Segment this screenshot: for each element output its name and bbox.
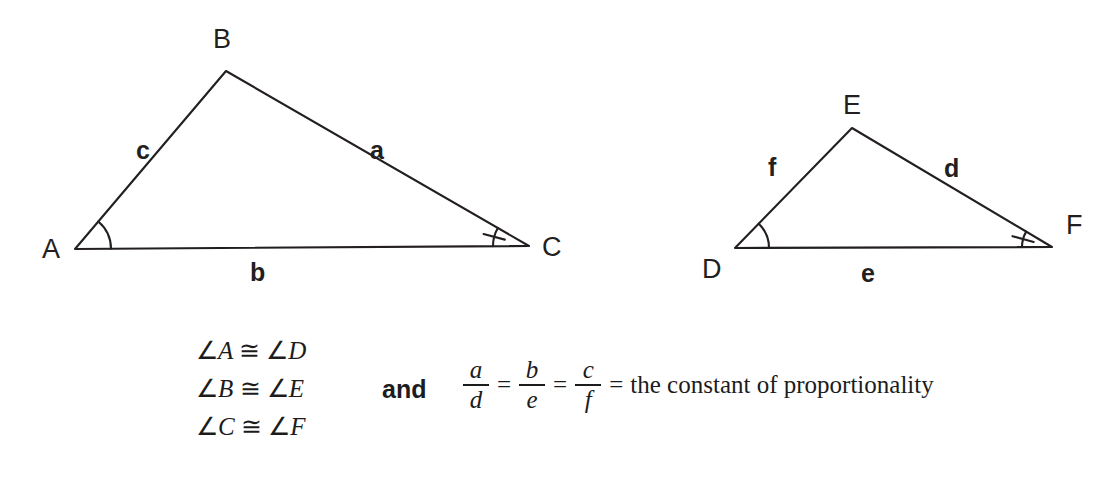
congruent-symbol-2: ≅ [240, 375, 261, 402]
angle-left-1: A [218, 337, 233, 364]
fraction-a-over-d: a d [463, 356, 489, 414]
angle-right-2: E [289, 375, 304, 402]
triangle-abc-group: A B C c a b [42, 24, 562, 286]
fraction-denominator: e [521, 386, 544, 414]
equals-sign-1: = [497, 371, 511, 399]
equals-sign-2: = [553, 371, 567, 399]
vertex-label-b: B [213, 24, 231, 54]
angle-arc-a [98, 222, 111, 249]
side-label-f: f [768, 153, 777, 181]
proportion-equation: a d = b e = c f = the constant of propor… [458, 356, 934, 414]
proportionality-text: the constant of proportionality [630, 371, 933, 399]
angle-congruence-list: ∠A ≅ ∠D ∠B ≅ ∠E ∠C ≅ ∠F [196, 332, 356, 446]
fraction-numerator: c [577, 356, 600, 384]
side-label-b: b [250, 258, 265, 286]
similarity-statements: ∠A ≅ ∠D ∠B ≅ ∠E ∠C ≅ ∠F and a d = [196, 332, 1076, 452]
conjunction-and: and [382, 370, 426, 408]
angle-symbol-3b: ∠ [268, 413, 290, 440]
angle-right-3: F [290, 413, 305, 440]
fraction-numerator: b [520, 356, 545, 384]
similar-triangles-figure: A B C c a b D E F f d e ∠A ≅ ∠D [0, 0, 1113, 483]
angle-symbol-3: ∠ [196, 413, 218, 440]
angle-congruence-row: ∠A ≅ ∠D [196, 332, 356, 370]
angle-symbol-2b: ∠ [267, 375, 289, 402]
vertex-label-c: C [542, 232, 562, 262]
angle-congruence-row: ∠B ≅ ∠E [196, 370, 356, 408]
triangle-def-outline [735, 128, 1052, 248]
congruent-symbol-1: ≅ [239, 337, 260, 364]
fraction-b-over-e: b e [519, 356, 545, 414]
side-label-e: e [861, 259, 875, 287]
fraction-numerator: a [464, 356, 489, 384]
fraction-c-over-f: c f [575, 356, 601, 414]
angle-symbol-2: ∠ [196, 375, 218, 402]
angle-symbol-1b: ∠ [266, 337, 288, 364]
vertex-label-e: E [843, 90, 861, 120]
side-label-c: c [136, 136, 150, 164]
angle-left-2: B [218, 375, 233, 402]
vertex-label-d: D [702, 254, 722, 284]
side-label-d: d [944, 154, 959, 182]
fraction-denominator: d [464, 386, 489, 414]
angle-symbol-1: ∠ [196, 337, 218, 364]
congruent-symbol-3: ≅ [241, 413, 262, 440]
fraction-denominator: f [579, 386, 598, 414]
triangle-def-group: D E F f d e [702, 90, 1083, 287]
angle-congruence-row: ∠C ≅ ∠F [196, 408, 356, 446]
angle-left-3: C [218, 413, 235, 440]
side-label-a: a [370, 136, 385, 164]
equals-sign-3: = [609, 371, 623, 399]
angle-right-1: D [288, 337, 306, 364]
vertex-label-f: F [1066, 210, 1083, 240]
vertex-label-a: A [42, 234, 60, 264]
angle-arc-d [759, 224, 769, 248]
